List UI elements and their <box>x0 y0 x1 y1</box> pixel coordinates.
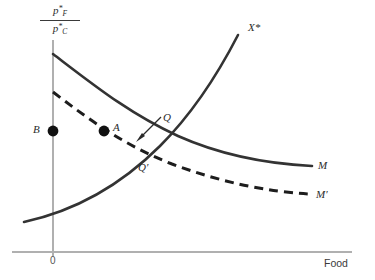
economics-diagram: p*F p*C X* M M′ B A Q Q′ 0 Food <box>0 0 375 280</box>
point-a-marker <box>99 126 110 137</box>
y-axis-denominator: p*C <box>40 20 80 37</box>
point-label-q: Q <box>163 112 171 123</box>
point-label-b: B <box>33 124 40 135</box>
import-demand-curve <box>53 54 312 166</box>
y-axis-numerator: p*F <box>40 4 80 19</box>
point-label-a: A <box>113 122 120 133</box>
curve-label-m-prime: M′ <box>316 189 328 200</box>
point-label-q-prime: Q′ <box>138 162 148 173</box>
plot-canvas <box>0 0 375 280</box>
y-axis-label: p*F p*C <box>40 4 80 36</box>
x-axis-label: Food <box>324 258 348 269</box>
curve-label-x-star: X* <box>248 22 260 33</box>
point-b-marker <box>48 126 59 137</box>
curve-label-m: M <box>318 160 327 171</box>
origin-label: 0 <box>50 256 56 266</box>
import-demand-curve-shifted <box>53 92 310 194</box>
